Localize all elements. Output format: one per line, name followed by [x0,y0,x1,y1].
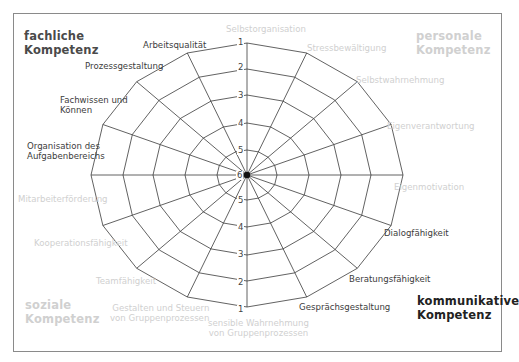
category-soziale-kompetenz: soziale Kompetenz [25,298,100,326]
scale-top-4: 4 [237,119,244,128]
scale-bottom-1: 1 [237,305,244,314]
axis-label-stressbewaeltigung: Stressbewältigung [307,43,386,53]
category-fachliche-kompetenz: fachliche Kompetenz [24,29,99,57]
axis-label-kooperationsfaehigkeit: Kooperationsfähigkeit [34,238,128,248]
scale-center-6: 6 [236,171,243,180]
axis-label-mitarbeiterfoerderung: Mitarbeiterförderung [18,194,108,204]
scale-bottom-4: 4 [237,223,244,232]
scale-top-2: 2 [237,63,244,72]
axis-label-organisation-aufgabenbereich: Organisation des Aufgabenbereichs [27,141,105,161]
axis-label-eigenverantwortung: Eigenverantwortung [387,121,475,131]
center-dot [244,172,250,178]
axis-spoke [247,53,307,175]
scale-top-3: 3 [237,91,244,100]
scale-bottom-5: 5 [237,196,244,205]
axis-label-arbeitsqualitaet: Arbeitsqualität [143,40,206,50]
axis-spoke [247,175,357,268]
scale-top-5: 5 [237,146,244,155]
scale-top-1: 1 [237,38,244,47]
axis-label-gestalten-steuern: Gestalten und Steuern von Gruppenprozess… [110,303,209,323]
axis-label-sensible-wahrnehmung: sensible Wahrnehmung von Gruppenprozesse… [208,318,309,338]
axis-label-beratungsfaehigkeit: Beratungsfähigkeit [349,274,430,284]
axis-label-fachwissen-koennen: Fachwissen und Können [60,95,128,115]
scale-bottom-3: 3 [237,250,244,259]
axis-spoke [137,82,247,175]
axis-label-dialogfaehigkeit: Dialogfähigkeit [384,228,449,238]
axis-label-teamfaehigkeit: Teamfähigkeit [96,276,156,286]
axis-label-eigenmotivation: Eigenmotivation [394,182,464,192]
axis-spoke [247,82,357,175]
category-personale-kompetenz: personale Kompetenz [416,29,491,57]
axis-label-selbstorganisation: Selbstorganisation [226,24,306,34]
axis-spoke [137,175,247,268]
axis-label-selbstwahrnehmung: Selbstwahrnehmung [356,75,444,85]
category-kommunikative-kompetenz: kommunikative Kompetenz [417,294,519,322]
axis-label-prozessgestaltung: Prozessgestaltung [85,61,163,71]
axis-label-gespraechsgestaltung: Gesprächsgestaltung [299,302,390,312]
axis-spoke [247,175,307,297]
scale-bottom-2: 2 [237,278,244,287]
